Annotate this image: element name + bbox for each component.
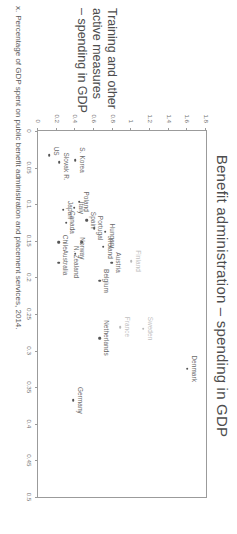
y-axis-tick-label: 1.8 [203,114,210,123]
x-axis-tick-label: 0 [26,129,33,132]
y-axis-tick [93,128,94,131]
x-axis-tick [35,204,38,205]
y-axis-tick [149,128,150,131]
data-point-label: Portugal [98,216,105,241]
x-axis-tick-label: 0.5 [26,493,33,502]
data-point-label: Australia [62,250,69,276]
data-point [186,368,188,370]
y-axis-tick-label: 0.4 [72,114,79,123]
x-axis-tick-label: 0.45 [26,454,33,466]
data-point-label: Ireland [107,239,114,259]
x-axis-tick-label: 0.1 [26,200,33,209]
data-point-label: Belgium [103,269,110,293]
x-axis-tick-label: 0.2 [26,273,33,282]
data-point [58,161,60,163]
y-axis-tick-label: 1.4 [165,114,172,123]
figure-rotator: Benefit administration – spending in GDP… [0,0,237,534]
x-axis-tick [35,241,38,242]
data-point-label: US [53,147,60,156]
data-point [102,245,104,247]
data-point-label: Denmark [191,355,198,382]
x-axis-tick [35,424,38,425]
data-point-label: Japan [67,201,74,219]
data-point [74,159,76,161]
data-point-label: Germany [77,387,84,414]
y-axis-tick-label: 0.6 [91,114,98,123]
data-point-label: Sweden [147,317,154,341]
data-point-label: Finland [135,250,142,272]
x-axis-tick-label: 0.15 [26,235,33,247]
data-point-label: S. Korea [79,147,86,173]
data-point-label: Chile [62,235,69,250]
x-axis-tick-label: 0.05 [26,162,33,174]
y-axis-tick-label: 1.2 [147,114,154,123]
data-point [98,337,100,339]
y-axis-tick [37,128,38,131]
y-axis-title-line-2: active measures [89,8,104,112]
data-point [130,260,132,262]
y-axis-tick-label: 0.2 [53,114,60,123]
y-axis-tick [168,128,169,131]
data-point-label: Austria [115,252,122,273]
x-axis-tick [35,497,38,498]
data-point-label: Slovak R. [63,152,70,180]
footnote-text: Percentage of GDP spent on public benefi… [14,15,23,329]
chart-title: Benefit administration – spending in GDP [214,96,231,496]
data-point [62,209,64,211]
x-axis-tick-label: 0.35 [26,381,33,393]
footnote-marker: x. [14,6,23,12]
data-point [142,327,144,329]
y-axis-tick-label: 0 [35,120,42,123]
data-point [65,221,67,223]
x-axis-tick [35,314,38,315]
y-axis-tick-label: 1 [128,120,135,123]
data-point-label: Italy [78,202,85,214]
y-axis-tick [56,128,57,131]
data-point [119,326,121,328]
y-axis-tick [186,128,187,131]
y-axis-title-line-1: Training and other [104,8,119,112]
x-axis-tick [35,387,38,388]
y-axis-tick [205,128,206,131]
y-axis-tick-label: 0.8 [109,114,116,123]
data-point [57,241,59,243]
data-point-label: Norway [79,237,86,259]
scatter-chart-figure: Benefit administration – spending in GDP… [0,0,237,534]
x-axis-tick [35,131,38,132]
data-point [72,399,74,401]
data-point [48,154,50,156]
data-point-label: N. Zealand [73,246,80,278]
x-axis-tick-label: 0.4 [26,419,33,428]
data-point [57,262,59,264]
y-axis-tick [112,128,113,131]
x-axis-tick [35,277,38,278]
data-point-label: France [124,317,131,338]
x-axis-tick [35,460,38,461]
figure-footnote: x.Percentage of GDP spent on public bene… [14,6,23,330]
y-axis-title: Training and other active measures – spe… [74,8,119,112]
x-axis-tick-label: 0.3 [26,346,33,355]
x-axis-tick-label: 0.25 [26,308,33,320]
data-point [85,219,87,221]
data-point [98,280,100,282]
x-axis-tick [35,168,38,169]
data-point-label: Spain [90,212,97,229]
data-point [111,262,113,264]
data-point-label: Netherlands [103,320,110,356]
plot-area: 00.050.10.150.20.250.30.350.40.450.500.2… [37,130,207,498]
y-axis-title-line-3: – spending in GDP [74,8,89,112]
x-axis-tick [35,351,38,352]
y-axis-tick [130,128,131,131]
y-axis-tick-label: 1.6 [184,114,191,123]
y-axis-tick [74,128,75,131]
